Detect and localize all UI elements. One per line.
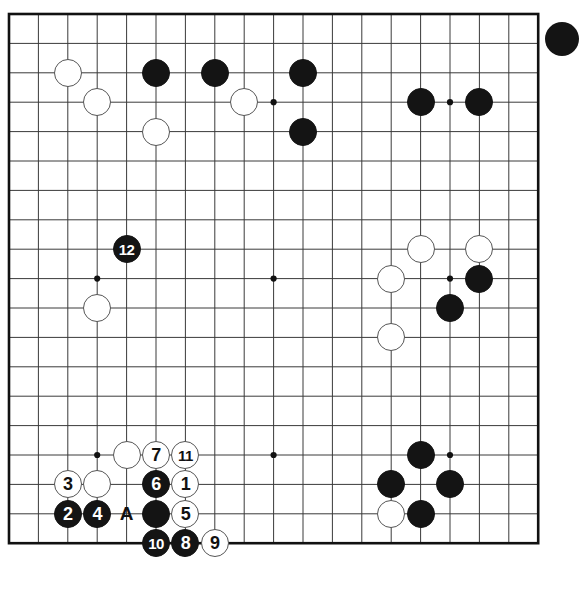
- move-number-label: 9: [210, 534, 220, 552]
- point-label-text: A: [120, 503, 134, 525]
- stone-white[interactable]: [407, 235, 435, 263]
- move-number-label: 7: [151, 446, 161, 464]
- move-number-label: 8: [181, 534, 191, 552]
- move-number-label: 12: [119, 242, 135, 257]
- stone-white-move-7[interactable]: 7: [142, 441, 170, 469]
- stone-black[interactable]: [465, 265, 493, 293]
- move-number-label: 11: [178, 448, 193, 463]
- stone-white[interactable]: [83, 294, 111, 322]
- stone-black-move-10[interactable]: 10: [142, 529, 170, 557]
- stone-black[interactable]: [289, 59, 317, 87]
- stone-black[interactable]: [407, 88, 435, 116]
- stone-black[interactable]: [201, 59, 229, 87]
- stone-black-move-4[interactable]: 4: [83, 500, 111, 528]
- stone-white-move-3[interactable]: 3: [54, 470, 82, 498]
- move-number-label: 4: [92, 505, 102, 523]
- move-number-label: 6: [151, 475, 161, 493]
- point-label-a[interactable]: A: [113, 500, 141, 528]
- stone-black[interactable]: [407, 500, 435, 528]
- page-edge-artifact-stone: [545, 22, 579, 56]
- stone-black[interactable]: [436, 294, 464, 322]
- move-number-label: 3: [63, 475, 73, 493]
- stone-black[interactable]: [142, 500, 170, 528]
- stone-white-move-9[interactable]: 9: [201, 529, 229, 557]
- stone-white[interactable]: [377, 265, 405, 293]
- move-number-label: 10: [148, 536, 164, 551]
- move-number-label: 1: [181, 475, 191, 493]
- move-number-label: 2: [63, 505, 73, 523]
- stone-black[interactable]: [289, 118, 317, 146]
- stone-white[interactable]: [377, 500, 405, 528]
- stone-black[interactable]: [142, 59, 170, 87]
- stone-black[interactable]: [407, 441, 435, 469]
- stone-white[interactable]: [54, 59, 82, 87]
- stone-black-move-12[interactable]: 12: [113, 235, 141, 263]
- move-number-label: 5: [181, 505, 191, 523]
- stone-white[interactable]: [113, 441, 141, 469]
- stone-white-move-5[interactable]: 5: [171, 500, 199, 528]
- stone-white[interactable]: [142, 118, 170, 146]
- stone-black-move-2[interactable]: 2: [54, 500, 82, 528]
